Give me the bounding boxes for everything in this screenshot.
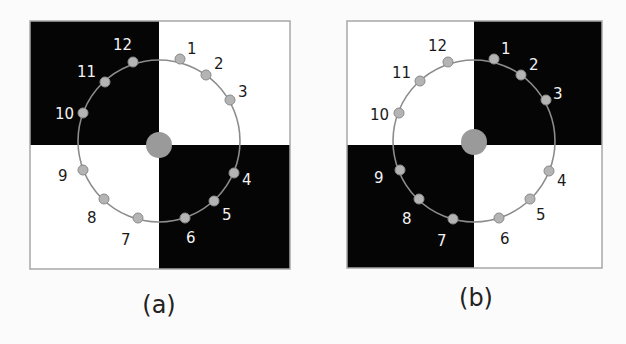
point-12 — [128, 57, 138, 67]
point-4 — [229, 168, 239, 178]
point-8 — [99, 194, 109, 204]
point-10 — [78, 108, 88, 118]
quadrant-bottom-left-dark — [347, 145, 474, 268]
point-11 — [100, 77, 110, 87]
label-12: 12 — [428, 37, 447, 55]
point-2 — [201, 70, 211, 80]
point-10 — [394, 108, 404, 118]
label-7: 7 — [121, 231, 131, 249]
quadrant-top-left-light — [347, 21, 474, 145]
label-11: 11 — [392, 64, 411, 82]
label-9: 9 — [374, 169, 384, 187]
point-7 — [448, 214, 458, 224]
panel-b: 1 2 3 4 5 6 7 8 9 10 11 12 (b) — [347, 21, 602, 312]
quadrant-top-right-light — [159, 21, 290, 145]
point-5 — [525, 194, 535, 204]
point-12 — [443, 57, 453, 67]
caption-a: (a) — [142, 291, 175, 319]
panel-a: 1 2 3 4 5 6 7 8 9 10 11 12 (a) — [30, 21, 290, 319]
point-2 — [516, 70, 526, 80]
point-3 — [225, 95, 235, 105]
label-11: 11 — [77, 63, 96, 81]
label-2: 2 — [214, 55, 224, 73]
center-point — [146, 132, 172, 158]
point-4 — [544, 166, 554, 176]
point-1 — [489, 54, 499, 64]
quadrant-top-left-dark — [30, 21, 159, 145]
label-1: 1 — [501, 40, 511, 58]
label-6: 6 — [500, 230, 510, 248]
point-8 — [414, 194, 424, 204]
label-6: 6 — [186, 229, 196, 247]
label-5: 5 — [222, 206, 232, 224]
label-8: 8 — [87, 209, 97, 227]
label-10: 10 — [370, 106, 389, 124]
label-9: 9 — [58, 167, 68, 185]
label-2: 2 — [529, 56, 539, 74]
label-7: 7 — [437, 232, 447, 250]
label-12: 12 — [113, 36, 132, 54]
center-point — [461, 129, 487, 155]
quadrant-bottom-left-light — [30, 145, 159, 269]
label-3: 3 — [238, 83, 248, 101]
label-3: 3 — [553, 85, 563, 103]
point-11 — [415, 76, 425, 86]
label-4: 4 — [242, 171, 252, 189]
label-10: 10 — [55, 105, 74, 123]
caption-b: (b) — [459, 284, 493, 312]
point-9 — [78, 165, 88, 175]
point-7 — [133, 213, 143, 223]
point-1 — [175, 54, 185, 64]
checkerboard-figure: 1 2 3 4 5 6 7 8 9 10 11 12 (a) — [0, 0, 626, 344]
point-5 — [209, 196, 219, 206]
label-4: 4 — [557, 172, 567, 190]
point-9 — [395, 165, 405, 175]
point-6 — [180, 213, 190, 223]
label-1: 1 — [187, 40, 197, 58]
quadrant-top-right-dark — [474, 21, 602, 145]
label-8: 8 — [402, 210, 412, 228]
point-3 — [541, 95, 551, 105]
point-6 — [494, 213, 504, 223]
label-5: 5 — [536, 206, 546, 224]
